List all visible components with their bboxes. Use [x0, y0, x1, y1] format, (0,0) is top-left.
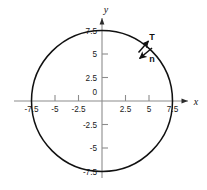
x-tick-label--5: -5: [51, 105, 59, 114]
tangent-vector-label: T: [149, 32, 155, 42]
origin-label: 0: [92, 88, 97, 97]
x-tick-label--7.5: -7.5: [24, 105, 39, 114]
x-tick-label-7.5: 7.5: [167, 105, 179, 114]
x-axis-label: x: [193, 96, 199, 107]
x-axis-arrowhead: [182, 99, 189, 104]
y-tick-label-7.5: 7.5: [86, 27, 98, 36]
x-tick-label-5: 5: [147, 105, 152, 114]
normal-vector-label: n: [149, 54, 155, 64]
y-tick-label-2.5: 2.5: [86, 74, 98, 83]
y-tick-label--7.5: -7.5: [83, 168, 98, 177]
axes-group: [14, 18, 188, 178]
circle-plot: -7.5 -5 -2.5 2.5 5 7.5 7.5 5 2.5 -2.5 -5…: [0, 0, 207, 190]
y-tick-label-5: 5: [92, 50, 97, 59]
y-tick-label--5: -5: [90, 144, 98, 153]
vector-annotations: T n: [139, 32, 156, 64]
x-tick-label-2.5: 2.5: [120, 105, 132, 114]
y-axis-arrowhead: [100, 18, 105, 25]
y-tick-label--2.5: -2.5: [83, 121, 98, 130]
x-tick-label--2.5: -2.5: [71, 105, 86, 114]
figure-container: -7.5 -5 -2.5 2.5 5 7.5 7.5 5 2.5 -2.5 -5…: [0, 0, 207, 190]
y-axis-label: y: [103, 4, 109, 15]
